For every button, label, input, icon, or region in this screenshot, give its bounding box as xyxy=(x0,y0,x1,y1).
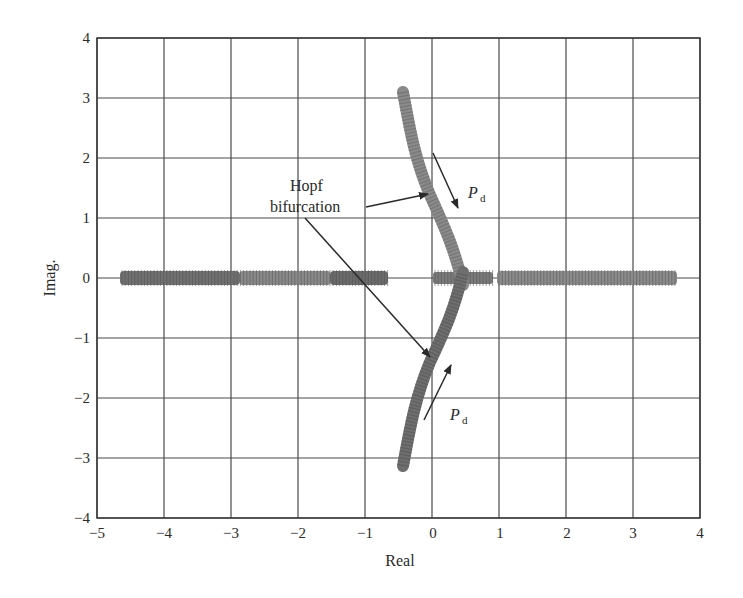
x-axis-label: Real xyxy=(385,552,415,569)
y-axis-label: Imag. xyxy=(41,260,59,297)
x-tick: −5 xyxy=(89,525,105,541)
y-tick: −1 xyxy=(74,330,90,346)
x-tick: −4 xyxy=(156,525,172,541)
upper-branch xyxy=(403,92,463,285)
x-tick: −2 xyxy=(290,525,306,541)
pd-label-upper: P d xyxy=(467,184,486,204)
eigenvalue-loci xyxy=(120,92,677,466)
y-tick: 0 xyxy=(83,270,91,286)
hopf-label-line1: Hopf xyxy=(290,177,324,195)
pd-label-lower-sub: d xyxy=(462,414,468,426)
pd-label-lower-main: P xyxy=(449,406,460,423)
x-tick-labels: −5 −4 −3 −2 −1 0 1 2 3 4 xyxy=(89,525,704,541)
x-tick: 4 xyxy=(696,525,704,541)
hopf-arrow-upper xyxy=(366,194,428,207)
y-tick: −2 xyxy=(74,390,90,406)
y-tick: 2 xyxy=(83,150,91,166)
x-tick: 0 xyxy=(429,525,437,541)
y-tick: 4 xyxy=(83,30,91,46)
x-tick: 3 xyxy=(629,525,637,541)
y-tick: −4 xyxy=(74,510,90,526)
x-tick: −1 xyxy=(357,525,373,541)
y-tick: 1 xyxy=(83,210,91,226)
y-tick: −3 xyxy=(74,450,90,466)
x-tick: 2 xyxy=(563,525,571,541)
pd-label-upper-sub: d xyxy=(480,192,486,204)
pd-label-lower: P d xyxy=(449,406,468,426)
x-tick: −3 xyxy=(223,525,239,541)
x-tick: 1 xyxy=(496,525,504,541)
y-tick: 3 xyxy=(83,90,91,106)
pd-label-upper-main: P xyxy=(467,184,478,201)
root-locus-chart: Hopf bifurcation P d P d −5 −4 −3 −2 −1 … xyxy=(0,0,743,598)
hopf-arrow-lower xyxy=(305,218,430,357)
hopf-label-line2: bifurcation xyxy=(270,198,340,215)
y-tick-labels: 4 3 2 1 0 −1 −2 −3 −4 xyxy=(74,30,90,526)
real-axis-right-segment xyxy=(497,271,677,285)
